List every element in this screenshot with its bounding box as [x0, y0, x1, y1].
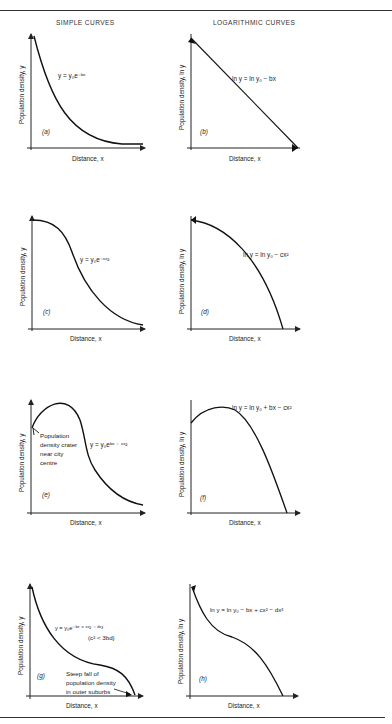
panel-c-label: (c): [43, 308, 50, 316]
panel-e-label: (e): [42, 491, 50, 499]
panel-e-annotation-2: density crater: [40, 441, 77, 448]
panel-b-equation: ln y = ln y₀ − bx: [232, 75, 277, 83]
panel-h-xlabel: Distance, x: [228, 702, 260, 709]
panel-g-xlabel: Distance, x: [66, 702, 98, 709]
panel-e-annotation-4: centre: [40, 459, 58, 466]
panel-d-label: (d): [201, 308, 209, 316]
panel-c-ylabel: Population density, y: [19, 247, 27, 306]
panel-a-equation: y = y₀e⁻ᵇˣ: [58, 72, 86, 80]
panel-d-ylabel: Population density, ln y: [178, 248, 186, 314]
panel-g-annotation-1: Steep fall of: [66, 670, 99, 677]
panel-a-ylabel: Population density, y: [18, 65, 26, 124]
panel-c-xlabel: Distance, x: [70, 335, 102, 342]
panel-c-equation: y = y₀e⁻ᶜˣ²: [80, 256, 109, 264]
panel-f-xlabel: Distance, x: [229, 519, 261, 526]
panel-g-label: (g): [37, 672, 45, 680]
panel-a-label: (a): [42, 128, 50, 136]
panel-g-annotation-3: in outer suburbs: [66, 688, 110, 695]
panel-a-xlabel: Distance, x: [72, 155, 104, 162]
panel-d-xlabel: Distance, x: [229, 335, 261, 342]
figure-canvas: y = y₀e⁻ᵇˣ (a) Distance, x Population de…: [0, 0, 392, 724]
panel-g-annotation-2: population density: [66, 679, 117, 686]
panel-f-equation: ln y = ln y₀ + bx − cx²: [232, 404, 292, 412]
panel-b-label: (b): [200, 128, 208, 136]
panel-b-ylabel: Population density, ln y: [178, 64, 186, 130]
panel-f-ylabel: Population density, ln y: [178, 431, 186, 497]
panel-e-annotation-3: near city: [40, 450, 64, 457]
panel-h-label: (h): [199, 675, 207, 683]
panel-f-label: (f): [200, 494, 206, 502]
panel-d-equation: ln y = ln y₀ − cx²: [243, 251, 289, 259]
panel-g-ylabel: Population density, y: [17, 616, 25, 675]
panel-h-ylabel: Population density, ln y: [177, 618, 185, 684]
panel-e-equation: y = y₀eᵇˣ ⁻ ᶜˣ²: [90, 441, 127, 449]
panel-g-equation: y = y₀e⁻ᵇˣ ⁺ ᶜˣ² ⁻ ᵈˣ³: [55, 625, 103, 631]
panel-e-xlabel: Distance, x: [70, 519, 102, 526]
panel-b-xlabel: Distance, x: [229, 155, 261, 162]
panel-e-ylabel: Population density, y: [18, 433, 26, 492]
panel-e-annotation-1: Population: [40, 432, 70, 439]
panel-h-equation: ln y = ln y₀ − bx + cx² − dx³: [210, 606, 283, 613]
panel-g-condition: (c² < 3bd): [88, 634, 115, 641]
